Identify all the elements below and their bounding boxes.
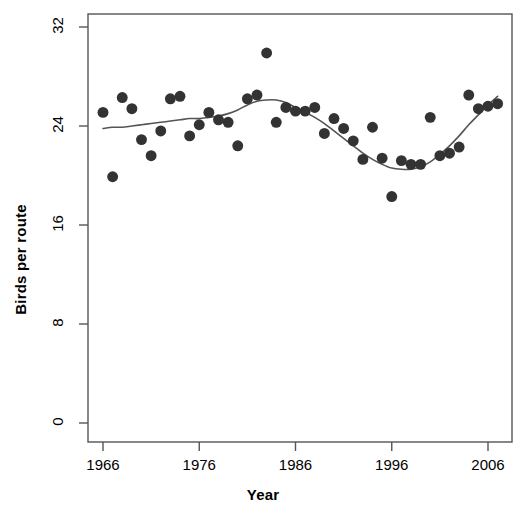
plot-area-svg <box>0 0 526 518</box>
x-tick-label: 2006 <box>462 456 514 473</box>
x-axis-title: Year <box>247 486 280 503</box>
data-points <box>98 48 504 202</box>
y-tick-label: 16 <box>49 208 66 240</box>
y-axis-title-wrap: Birds per route <box>0 0 40 518</box>
plot-box-frame <box>88 14 512 442</box>
x-tick-label: 1976 <box>173 456 225 473</box>
y-axis-title: Birds per route <box>12 204 29 315</box>
y-tick-label: 24 <box>49 109 66 141</box>
x-tick-label: 1996 <box>366 456 418 473</box>
y-tick-label: 8 <box>49 307 66 339</box>
x-tick-label: 1966 <box>77 456 129 473</box>
y-tick-label: 0 <box>49 406 66 438</box>
x-tick-label: 1986 <box>270 456 322 473</box>
y-tick-label: 32 <box>49 10 66 42</box>
bird-population-chart: Birds per route Year 0816243219661976198… <box>0 0 526 518</box>
tick-marks <box>79 27 488 451</box>
x-axis-title-wrap: Year <box>0 486 526 503</box>
